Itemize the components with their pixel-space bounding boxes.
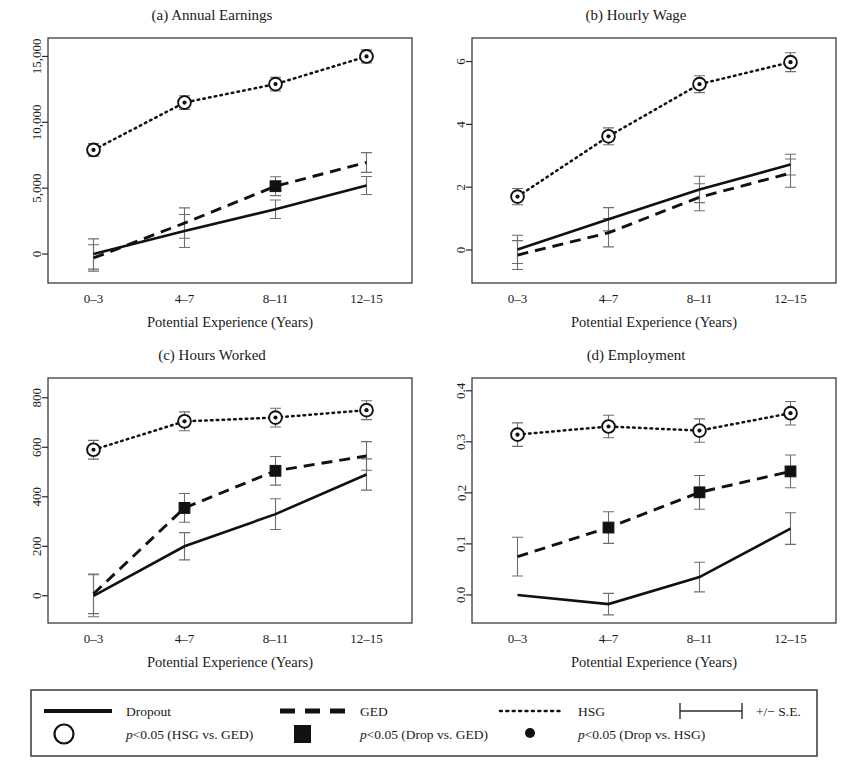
error-bars-dropout xyxy=(88,177,372,270)
error-bars-dropout xyxy=(603,513,796,615)
y-tick-label: 400 xyxy=(30,487,45,507)
marker-filled-dot xyxy=(515,195,519,199)
error-bars-hsg xyxy=(512,53,796,205)
y-axis-b: 0246 xyxy=(454,58,473,253)
markers-ged xyxy=(179,465,281,513)
plot-area-c xyxy=(87,401,373,617)
x-axis-title: Potential Experience (Years) xyxy=(147,314,313,331)
y-tick-label: 0.1 xyxy=(454,536,469,552)
series-line-ged xyxy=(518,471,791,556)
y-tick-label: 0 xyxy=(30,593,45,600)
y-tick-label: 0.3 xyxy=(454,434,469,450)
error-bars-hsg xyxy=(88,50,372,156)
marker-filled-square xyxy=(179,503,190,514)
marker-filled-dot xyxy=(364,408,368,412)
panel-hourly-wage: (b) Hourly Wage02460–34–78–1112–15Potent… xyxy=(424,0,848,340)
markers-ged xyxy=(270,181,281,192)
plot-area-a xyxy=(87,50,373,271)
markers-hsg xyxy=(87,50,373,156)
chart-svg-a: (a) Annual Earnings05,00010,00015,0000–3… xyxy=(0,0,424,340)
series-line-hsg xyxy=(94,410,367,450)
marker-filled-dot xyxy=(91,148,95,152)
x-axis-title: Potential Experience (Years) xyxy=(147,654,313,671)
x-axis-title: Potential Experience (Years) xyxy=(571,654,737,671)
marker-filled-dot xyxy=(697,428,701,432)
error-bars-ged xyxy=(88,153,372,272)
y-tick-label: 4 xyxy=(454,121,469,128)
error-bars-dropout xyxy=(88,459,372,617)
marker-filled-dot xyxy=(182,100,186,104)
markers-hsg xyxy=(87,404,373,456)
panel-title-c: (c) Hours Worked xyxy=(158,347,266,364)
marker-filled-square xyxy=(785,466,796,477)
plot-frame xyxy=(48,378,412,623)
marker-filled-square xyxy=(603,522,614,533)
x-tick-label: 8–11 xyxy=(687,291,713,306)
x-axis-a: 0–34–78–1112–15 xyxy=(84,291,383,306)
marker-filled-dot xyxy=(606,134,610,138)
y-axis-a: 05,00010,00015,000 xyxy=(30,39,49,258)
legend-swatch-filled-square xyxy=(294,725,311,743)
series-line-hsg xyxy=(94,56,367,150)
figure-panels: (a) Annual Earnings05,00010,00015,0000–3… xyxy=(0,0,848,765)
y-tick-label: 15,000 xyxy=(30,39,45,75)
legend-swatch-filled-dot xyxy=(525,728,535,738)
x-tick-label: 4–7 xyxy=(599,631,619,646)
x-tick-label: 4–7 xyxy=(175,631,195,646)
panel-title-b: (b) Hourly Wage xyxy=(586,7,687,24)
y-tick-label: 600 xyxy=(30,438,45,458)
marker-filled-dot xyxy=(697,82,701,86)
x-tick-label: 8–11 xyxy=(263,291,289,306)
x-tick-label: 0–3 xyxy=(84,631,104,646)
legend-label-sig-drop-hsg: p<0.05 (Drop vs. HSG) xyxy=(577,727,705,742)
y-axis-d: 0.00.10.20.30.4 xyxy=(454,382,473,603)
panel-annual-earnings: (a) Annual Earnings05,00010,00015,0000–3… xyxy=(0,0,424,340)
x-tick-label: 8–11 xyxy=(263,631,289,646)
marker-filled-dot xyxy=(606,424,610,428)
y-tick-label: 0.0 xyxy=(454,587,469,603)
x-tick-label: 12–15 xyxy=(774,291,807,306)
y-tick-label: 0 xyxy=(454,247,469,254)
legend-label-standard-error: +/− S.E. xyxy=(756,704,801,719)
y-tick-label: 200 xyxy=(30,537,45,557)
x-tick-label: 12–15 xyxy=(350,631,383,646)
series-line-hsg xyxy=(518,413,791,434)
marker-filled-dot xyxy=(182,419,186,423)
x-tick-label: 0–3 xyxy=(508,291,528,306)
plot-area-d xyxy=(511,401,797,614)
y-tick-label: 10,000 xyxy=(30,104,45,140)
x-tick-label: 12–15 xyxy=(774,631,807,646)
series-line-ged xyxy=(518,173,791,255)
marker-filled-dot xyxy=(788,411,792,415)
y-tick-label: 800 xyxy=(30,388,45,408)
marker-filled-square xyxy=(270,465,281,476)
panel-title-a: (a) Annual Earnings xyxy=(152,7,273,24)
error-bars-hsg xyxy=(512,401,796,446)
x-tick-label: 0–3 xyxy=(84,291,104,306)
x-axis-c: 0–34–78–1112–15 xyxy=(84,631,383,646)
x-tick-label: 4–7 xyxy=(599,291,619,306)
plot-frame xyxy=(48,38,412,283)
legend-label-dropout: Dropout xyxy=(126,704,171,719)
y-tick-label: 0.2 xyxy=(454,485,469,501)
marker-filled-dot xyxy=(91,448,95,452)
markers-hsg xyxy=(511,56,797,203)
x-axis-b: 0–34–78–1112–15 xyxy=(508,291,807,306)
plot-area-b xyxy=(511,53,797,270)
chart-svg-c: (c) Hours Worked02004006008000–34–78–111… xyxy=(0,340,424,680)
marker-filled-square xyxy=(270,181,281,192)
x-tick-label: 12–15 xyxy=(350,291,383,306)
x-tick-label: 0–3 xyxy=(508,631,528,646)
error-bars-ged xyxy=(512,455,796,576)
legend-label-hsg: HSG xyxy=(578,704,605,719)
y-tick-label: 5,000 xyxy=(30,174,45,203)
y-axis-c: 0200400600800 xyxy=(30,388,49,599)
markers-hsg xyxy=(511,407,797,441)
chart-svg-b: (b) Hourly Wage02460–34–78–1112–15Potent… xyxy=(424,0,848,340)
marker-filled-square xyxy=(694,487,705,498)
marker-filled-dot xyxy=(515,433,519,437)
error-bars-ged xyxy=(88,442,372,614)
series-line-dropout xyxy=(518,529,791,605)
marker-filled-dot xyxy=(364,54,368,58)
y-tick-label: 0 xyxy=(30,251,45,257)
